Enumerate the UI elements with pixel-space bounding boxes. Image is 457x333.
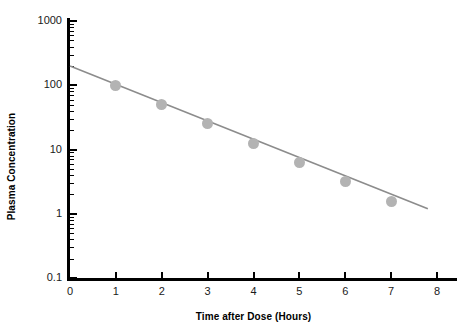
x-tick [298, 272, 300, 279]
y-tick-minor [70, 24, 74, 25]
y-tick-minor [70, 55, 74, 56]
y-tick-minor [70, 194, 74, 195]
data-point-marker [340, 176, 351, 187]
y-tick-minor [70, 66, 74, 67]
y-tick-label: 100 [2, 78, 62, 90]
x-tick [207, 272, 209, 279]
y-tick-minor [70, 95, 74, 96]
x-tick-label: 3 [188, 285, 228, 297]
plasma-concentration-chart: Plasma Concentration 0.11101001000 01234… [0, 0, 457, 333]
data-point-marker [202, 118, 213, 129]
y-tick-minor [70, 130, 74, 131]
x-tick-label: 2 [142, 285, 182, 297]
x-tick [253, 272, 255, 279]
x-tick [390, 272, 392, 279]
data-point-marker [110, 80, 121, 91]
x-tick-label: 1 [96, 285, 136, 297]
x-tick-label: 4 [234, 285, 274, 297]
y-tick-minor [70, 105, 74, 106]
y-tick-label: 1000 [2, 14, 62, 26]
y-tick-label: 1 [2, 207, 62, 219]
x-tick [436, 272, 438, 279]
y-tick-major [70, 84, 77, 86]
x-tick-label: 0 [50, 285, 90, 297]
y-tick-minor [70, 175, 74, 176]
y-tick-major [70, 213, 77, 215]
y-tick-minor [70, 88, 74, 89]
data-point-marker [386, 196, 397, 207]
data-point-marker [156, 99, 167, 110]
y-tick-minor [70, 217, 74, 218]
y-tick-minor [70, 164, 74, 165]
y-tick-minor [70, 239, 74, 240]
y-tick-major [70, 149, 77, 151]
y-tick-major [70, 20, 77, 22]
y-tick-minor [70, 35, 74, 36]
y-tick-minor [70, 224, 74, 225]
x-tick [115, 272, 117, 279]
y-tick-minor [70, 159, 74, 160]
x-tick [161, 272, 163, 279]
x-tick-label: 6 [325, 285, 365, 297]
y-tick-label: 0.1 [2, 271, 62, 283]
x-axis-title: Time after Dose (Hours) [70, 311, 437, 322]
x-tick-label: 8 [417, 285, 457, 297]
y-tick-minor [70, 156, 74, 157]
y-tick-minor [70, 119, 74, 120]
y-tick-minor [70, 169, 74, 170]
y-tick-minor [70, 31, 74, 32]
x-tick-label: 5 [279, 285, 319, 297]
y-tick-minor [70, 47, 74, 48]
y-tick-minor [70, 27, 74, 28]
data-point-marker [248, 138, 259, 149]
y-axis-tick-labels: 0.11101001000 [0, 0, 62, 333]
y-tick-minor [70, 233, 74, 234]
y-tick-minor [70, 228, 74, 229]
x-tick [344, 272, 346, 279]
y-tick-minor [70, 152, 74, 153]
y-tick-minor [70, 220, 74, 221]
y-tick-minor [70, 183, 74, 184]
x-tick-label: 7 [371, 285, 411, 297]
y-tick-minor [70, 40, 74, 41]
x-axis-line [67, 278, 457, 281]
y-tick-minor [70, 259, 74, 260]
y-tick-label: 10 [2, 143, 62, 155]
y-tick-minor [70, 111, 74, 112]
y-tick-minor [70, 100, 74, 101]
y-tick-minor [70, 91, 74, 92]
y-tick-major [70, 277, 77, 279]
y-tick-minor [70, 247, 74, 248]
data-point-marker [294, 157, 305, 168]
